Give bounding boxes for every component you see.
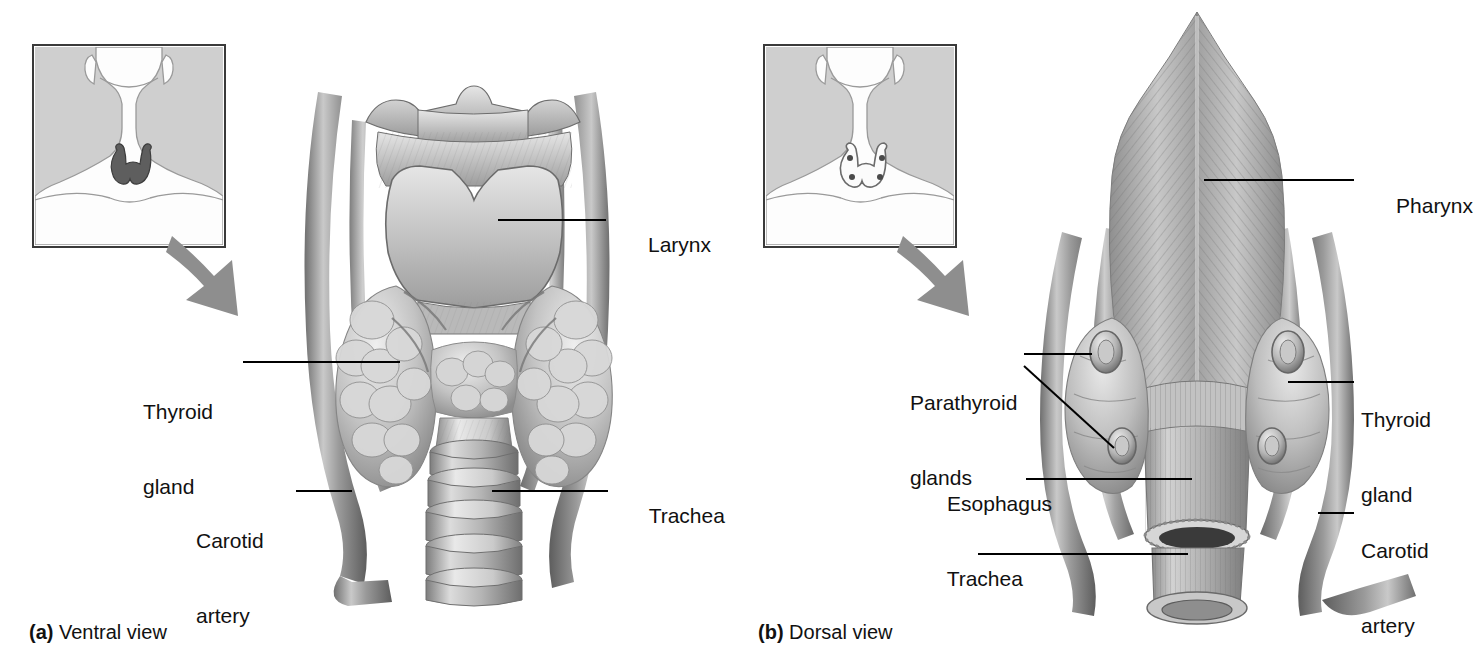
label-larynx-line1: Larynx [648, 233, 711, 256]
label-trachea-b: Trachea [912, 541, 1023, 616]
dorsal-illustration [740, 0, 1456, 666]
caption-dorsal-text: Dorsal view [784, 621, 893, 643]
caption-ventral-text: Ventral view [53, 621, 166, 643]
label-carotid-artery-b: Carotid artery [1361, 488, 1429, 666]
label-thyroid-gland-b-line1: Thyroid [1361, 407, 1431, 432]
inset-parathyroid-dot [879, 155, 885, 161]
trachea-dorsal [1147, 548, 1247, 624]
inset-parathyroid-dot [847, 155, 853, 161]
label-carotid-artery-line1: Carotid [196, 528, 264, 553]
esophagus [1144, 426, 1250, 552]
caption-ventral-marker: (a) [29, 621, 53, 643]
label-trachea-b-line1: Trachea [947, 567, 1023, 590]
label-larynx: Larynx [613, 207, 711, 282]
label-parathyroid-glands-line1: Parathyroid [910, 390, 1017, 415]
label-trachea: Trachea [614, 478, 725, 553]
label-carotid-artery: Carotid artery [196, 478, 264, 666]
dorsal-anatomy [1040, 12, 1416, 624]
label-carotid-artery-b-line1: Carotid [1361, 538, 1429, 563]
panel-dorsal-view: Pharynx Thyroid gland Carotid artery Par… [740, 0, 1456, 666]
ventral-anatomy [305, 86, 613, 606]
ventral-illustration [0, 0, 740, 666]
caption-dorsal-marker: (b) [758, 621, 784, 643]
label-pharynx: Pharynx [1361, 168, 1473, 243]
label-carotid-artery-b-line2: artery [1361, 613, 1429, 638]
trachea-ventral [426, 418, 522, 606]
label-trachea-line1: Trachea [649, 504, 725, 527]
panel-ventral-view: Larynx Thyroid gland Carotid artery Trac… [0, 0, 740, 666]
inset-locator-dorsal [764, 45, 956, 247]
label-pharynx-line1: Pharynx [1396, 194, 1473, 217]
inset-locator-ventral [33, 45, 225, 247]
inset-parathyroid-dot [849, 174, 855, 180]
inset-parathyroid-dot [877, 174, 883, 180]
caption-dorsal: (b) Dorsal view [758, 620, 892, 644]
label-esophagus: Esophagus [912, 466, 1052, 541]
label-carotid-artery-line2: artery [196, 603, 264, 628]
label-thyroid-gland-line1: Thyroid [143, 399, 213, 424]
thyroid-gland-right-lobe [512, 286, 613, 487]
caption-ventral: (a) Ventral view [29, 620, 167, 644]
thyroid-gland-left-lobe [336, 286, 437, 487]
label-esophagus-line1: Esophagus [947, 492, 1052, 515]
